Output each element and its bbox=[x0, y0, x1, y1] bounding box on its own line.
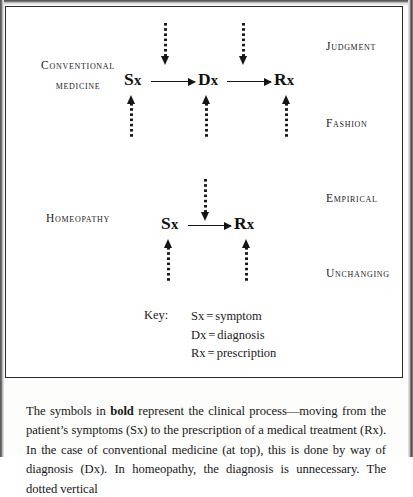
figure-frame: Conventional medicine Sx Dx Rx bbox=[5, 6, 403, 378]
key-equals: = bbox=[204, 309, 215, 323]
row-label-conventional-line2: medicine bbox=[24, 79, 132, 91]
node-head: R bbox=[234, 213, 247, 233]
key-meaning: symptom bbox=[215, 309, 262, 323]
key-symbol: Sx bbox=[191, 309, 204, 323]
page-edge-left bbox=[0, 0, 4, 457]
right-label-empirical: Empirical bbox=[326, 192, 378, 204]
node-sub: x bbox=[211, 72, 218, 88]
caption-bold-word: bold bbox=[110, 404, 134, 418]
row-label-homeopathy: Homeopathy bbox=[24, 212, 132, 224]
dotted-arrow-down-judgment-dx bbox=[161, 23, 170, 65]
key-equals: = bbox=[206, 328, 217, 342]
key-entry-sx: Sx=symptom bbox=[191, 307, 276, 326]
node-conventional-dx: Dx bbox=[198, 69, 218, 90]
right-label-fashion: Fashion bbox=[326, 117, 368, 129]
key-symbol: Rx bbox=[191, 346, 206, 360]
node-head: S bbox=[161, 213, 171, 233]
dotted-arrow-up-fashion-rx bbox=[282, 95, 291, 139]
dotted-arrow-down-judgment-rx bbox=[239, 23, 248, 65]
node-head: R bbox=[274, 69, 287, 89]
arrow-homeopathy-sx-to-rx bbox=[188, 221, 231, 230]
key-equals: = bbox=[206, 346, 217, 360]
dotted-arrow-up-unchanging-sx bbox=[164, 239, 173, 283]
key-entry-list: Sx=symptom Dx=diagnosis Rx=prescription bbox=[191, 307, 276, 363]
key-entry-dx: Dx=diagnosis bbox=[191, 326, 276, 345]
page-edge-top bbox=[0, 0, 413, 5]
node-head: D bbox=[198, 69, 211, 89]
arrow-dx-to-rx bbox=[227, 77, 271, 86]
key-title: Key: bbox=[144, 308, 168, 323]
caption-part1: The symbols in bbox=[26, 404, 110, 418]
row-label-conventional-line1: Conventional bbox=[24, 59, 132, 71]
dotted-arrow-down-empirical-rx bbox=[201, 179, 210, 221]
node-homeopathy-rx: Rx bbox=[234, 213, 254, 234]
right-label-judgment: Judgment bbox=[326, 40, 376, 52]
node-conventional-rx: Rx bbox=[274, 69, 294, 90]
figure-key: Key: Sx=symptom Dx=diagnosis Rx=prescrip… bbox=[144, 307, 276, 363]
dotted-arrow-up-fashion-sx bbox=[127, 95, 136, 139]
key-meaning: diagnosis bbox=[217, 328, 264, 342]
node-sub: x bbox=[171, 216, 178, 232]
node-head: S bbox=[124, 69, 134, 89]
node-homeopathy-sx: Sx bbox=[161, 213, 178, 234]
dotted-arrow-up-unchanging-rx bbox=[242, 239, 251, 283]
right-label-unchanging: Unchanging bbox=[326, 267, 390, 279]
node-sub: x bbox=[287, 72, 294, 88]
key-meaning: prescription bbox=[217, 346, 277, 360]
key-symbol: Dx bbox=[191, 328, 206, 342]
arrow-sx-to-dx bbox=[151, 77, 195, 86]
node-conventional-sx: Sx bbox=[124, 69, 141, 90]
page-edge-right bbox=[408, 0, 413, 457]
node-sub: x bbox=[134, 72, 141, 88]
figure-caption: The symbols in bold represent the clinic… bbox=[26, 402, 386, 497]
dotted-arrow-up-fashion-dx bbox=[202, 95, 211, 139]
key-entry-rx: Rx=prescription bbox=[191, 344, 276, 363]
node-sub: x bbox=[247, 216, 254, 232]
